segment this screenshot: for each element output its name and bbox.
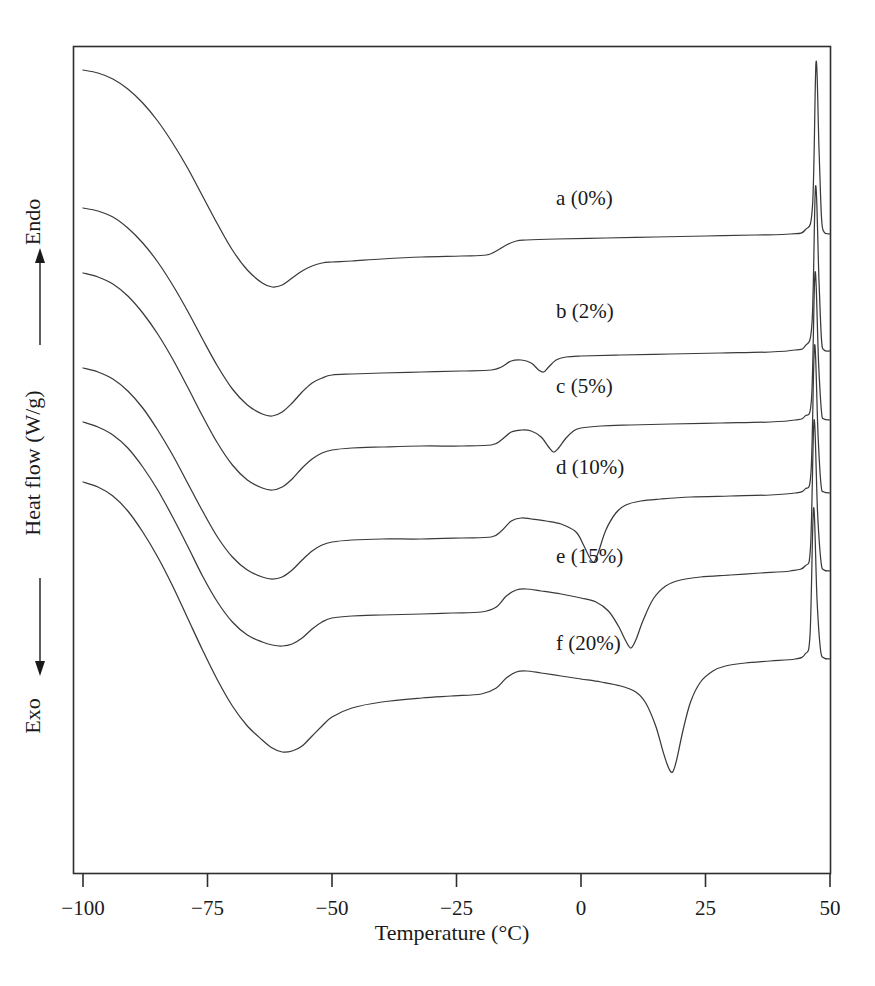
- data-curves: [83, 61, 830, 772]
- curve-b: [83, 186, 830, 417]
- curve-label-c: c (5%): [556, 374, 613, 398]
- y-axis-endo-label: Endo: [20, 199, 45, 245]
- x-axis-title: Temperature (°C): [375, 920, 529, 945]
- curve-a: [83, 61, 830, 287]
- chart-svg: −100−75−50−2502550 a (0%)b (2%)c (5%)d (…: [0, 0, 875, 986]
- x-tick-label: 25: [695, 896, 716, 920]
- endo-arrow-up-icon: [35, 248, 45, 345]
- x-axis-tick-labels: −100−75−50−2502550: [61, 896, 840, 920]
- curve-label-e: e (15%): [556, 544, 623, 568]
- x-tick-label: −75: [191, 896, 224, 920]
- y-axis-title: Heat flow (W/g): [20, 390, 45, 535]
- y-axis-exo-label: Exo: [20, 698, 45, 733]
- x-axis-ticks: [83, 873, 830, 887]
- curve-d: [83, 345, 830, 579]
- curve-label-b: b (2%): [556, 299, 614, 323]
- x-tick-label: −100: [61, 896, 104, 920]
- curve-c: [83, 272, 830, 490]
- x-tick-label: 50: [820, 896, 841, 920]
- plot-frame: [74, 47, 831, 874]
- exo-arrow-down-icon: [35, 578, 45, 676]
- curve-label-d: d (10%): [556, 455, 624, 479]
- x-tick-label: −25: [440, 896, 473, 920]
- dsc-thermogram-figure: −100−75−50−2502550 a (0%)b (2%)c (5%)d (…: [0, 0, 875, 986]
- curve-label-f: f (20%): [556, 631, 621, 655]
- x-tick-label: 0: [576, 896, 587, 920]
- curve-label-a: a (0%): [556, 186, 613, 210]
- x-tick-label: −50: [316, 896, 349, 920]
- curve-e: [83, 420, 830, 648]
- curve-labels: a (0%)b (2%)c (5%)d (10%)e (15%)f (20%): [556, 186, 624, 655]
- curve-f: [83, 482, 830, 772]
